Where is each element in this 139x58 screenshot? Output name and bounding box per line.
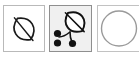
botanical-icon-strip [0,0,139,58]
circle-icon [98,6,139,51]
leaf-icon [4,6,44,51]
berry-icon [69,40,76,47]
icon-panel-leaf[interactable] [3,5,45,52]
leaf-berries-icon [50,6,91,51]
icon-panel-circle[interactable] [97,5,139,52]
icon-panel-leaf-berries[interactable] [49,5,92,52]
berry-icon [54,30,61,37]
berry-icon [54,39,61,46]
